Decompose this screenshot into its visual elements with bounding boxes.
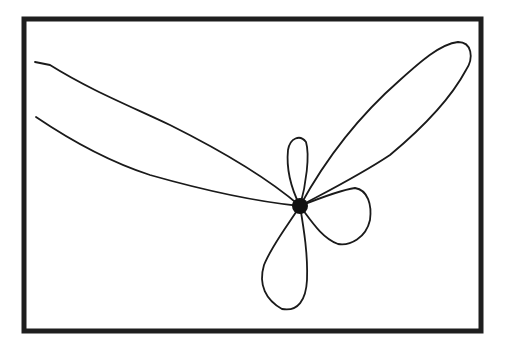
center-dot — [292, 198, 308, 214]
petal-right — [300, 188, 370, 244]
petal-upper-left — [35, 62, 300, 206]
rose-diagram — [0, 0, 506, 345]
petal-upper-right — [300, 42, 471, 206]
figure-frame — [24, 19, 481, 331]
petal-top — [288, 138, 308, 206]
petal-bottom — [262, 206, 307, 309]
